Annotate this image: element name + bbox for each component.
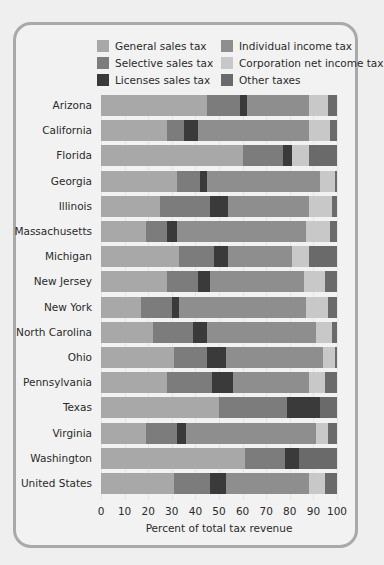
category-label: Washington (30, 452, 92, 464)
category-label: Ohio (68, 351, 92, 363)
x-tick-label: 70 (260, 505, 273, 517)
bar-segment (101, 297, 141, 318)
x-tick-label: 20 (142, 505, 155, 517)
category-label: Michigan (45, 250, 92, 262)
bar-segment (219, 397, 287, 418)
bar-row (101, 95, 337, 116)
bar-segment (207, 322, 316, 343)
bar-segment (306, 297, 327, 318)
bar-segment (283, 145, 292, 166)
bar-segment (193, 322, 207, 343)
bar-segment (332, 196, 337, 217)
bar-segment (212, 372, 233, 393)
bar-segment (101, 196, 160, 217)
bar-segment (233, 372, 309, 393)
legend-swatch (97, 74, 109, 86)
bar-segment (330, 221, 337, 242)
category-label: Georgia (51, 175, 92, 187)
bar-segment (174, 347, 207, 368)
bar-row (101, 347, 337, 368)
x-tick-label: 40 (189, 505, 202, 517)
legend-swatch (221, 74, 233, 86)
bar-segment (167, 221, 176, 242)
bar-segment (292, 145, 309, 166)
legend-swatch (221, 57, 233, 69)
x-tick-label: 0 (98, 505, 105, 517)
bar-segment (101, 271, 167, 292)
category-label: Florida (56, 149, 92, 161)
bar-segment (247, 95, 308, 116)
category-label: New Jersey (34, 275, 92, 287)
bar-segment (101, 246, 179, 267)
bar-row (101, 271, 337, 292)
x-tick-label: 90 (307, 505, 320, 517)
x-axis-label: Percent of total tax revenue (101, 522, 337, 534)
bar-segment (309, 120, 330, 141)
bar-segment (153, 322, 193, 343)
bar-segment (101, 322, 153, 343)
legend-swatch (221, 40, 233, 52)
bar-segment (309, 95, 328, 116)
legend-swatch (97, 57, 109, 69)
bar-segment (226, 347, 323, 368)
bar-segment (325, 372, 337, 393)
bar-segment (316, 322, 333, 343)
bar-segment (172, 297, 179, 318)
bar-row (101, 423, 337, 444)
legend-swatch (97, 40, 109, 52)
bar-segment (101, 347, 174, 368)
bar-segment (101, 221, 146, 242)
x-tick-label: 10 (118, 505, 131, 517)
bar-segment (330, 120, 337, 141)
bar-row (101, 372, 337, 393)
bar-segment (210, 473, 227, 494)
bar-segment (179, 297, 306, 318)
bar-segment (141, 297, 172, 318)
bar-segment (174, 473, 209, 494)
bar-segment (179, 246, 214, 267)
bar-segment (328, 297, 337, 318)
bar-segment (309, 246, 337, 267)
bar-segment (184, 120, 198, 141)
legend-label: Individual income tax (239, 40, 352, 52)
legend-label: Other taxes (239, 74, 301, 86)
bar-segment (287, 397, 320, 418)
bar-row (101, 120, 337, 141)
x-tick-label: 80 (283, 505, 296, 517)
bar-row (101, 145, 337, 166)
bar-segment (210, 196, 229, 217)
bar-segment (309, 145, 337, 166)
bar-row (101, 448, 337, 469)
legend-item: Other taxes (221, 74, 301, 86)
bar-segment (177, 221, 307, 242)
bar-segment (243, 145, 283, 166)
legend-label: Licenses sales tax (115, 74, 210, 86)
bar-segment (207, 95, 240, 116)
x-tick-label: 30 (165, 505, 178, 517)
bar-segment (320, 397, 337, 418)
bar-segment (210, 271, 304, 292)
x-tick-label: 60 (236, 505, 249, 517)
bar-segment (101, 372, 167, 393)
category-label: Texas (63, 401, 92, 413)
x-tick-label: 50 (212, 505, 225, 517)
bar-segment (320, 171, 334, 192)
bar-segment (214, 246, 228, 267)
bar-segment (325, 473, 337, 494)
bar-segment (160, 196, 210, 217)
bar-segment (245, 448, 285, 469)
bar-segment (335, 347, 337, 368)
bar-segment (316, 423, 328, 444)
bar-segment (101, 473, 174, 494)
bar-segment (304, 271, 325, 292)
bar-segment (228, 246, 292, 267)
bar-segment (323, 347, 335, 368)
bar-segment (167, 271, 198, 292)
bar-segment (335, 171, 337, 192)
legend-label: General sales tax (115, 40, 207, 52)
bar-row (101, 397, 337, 418)
bar-row (101, 297, 337, 318)
legend-item: General sales tax (97, 40, 207, 52)
bar-segment (207, 171, 320, 192)
bar-segment (309, 372, 326, 393)
